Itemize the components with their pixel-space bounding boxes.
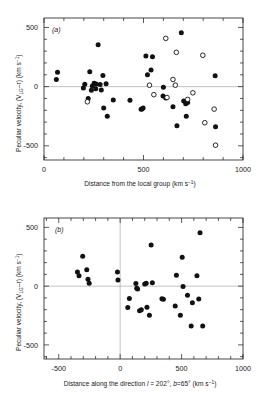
y-tick-label: 500 — [26, 223, 38, 232]
data-point-filled — [115, 278, 120, 283]
data-point-filled — [170, 104, 175, 109]
data-point-filled — [180, 255, 185, 260]
panel-a-data-points — [54, 30, 218, 147]
data-point-open — [185, 97, 190, 102]
data-point-filled — [111, 97, 116, 102]
data-point-filled — [161, 85, 166, 90]
data-point-filled — [127, 98, 132, 103]
figure-container: Peculiar velocity, (VLG–r) (km s−1) Dist… — [0, 0, 262, 403]
data-point-open — [165, 95, 170, 100]
data-point-filled — [104, 81, 109, 86]
data-point-filled — [184, 114, 189, 119]
panel-b-tag: (b) — [55, 226, 64, 234]
panel-a-tag: (a) — [52, 26, 61, 34]
data-point-filled — [174, 273, 179, 278]
data-point-open — [212, 107, 217, 112]
x-tick-label: 0 — [118, 364, 122, 373]
data-point-open — [202, 120, 207, 125]
data-point-filled — [54, 77, 59, 82]
x-tick-label: 0 — [42, 165, 46, 174]
data-point-filled — [93, 86, 98, 91]
svg-text:Peculiar velocity, (VLG–r) (km: Peculiar velocity, (VLG–r) (km s−1) — [15, 54, 24, 152]
data-point-filled — [196, 297, 201, 302]
data-point-filled — [139, 307, 144, 312]
panel-a-plot: Peculiar velocity, (VLG–r) (km s−1) Dist… — [0, 0, 262, 196]
data-point-filled — [127, 296, 132, 301]
x-tick-label: 1000 — [235, 165, 251, 174]
data-point-filled — [99, 87, 104, 92]
data-point-filled — [55, 70, 60, 75]
data-point-open — [174, 50, 179, 55]
data-point-filled — [173, 303, 178, 308]
data-point-open — [191, 90, 196, 95]
panel-a-y-axis-title: Peculiar velocity, (VLG–r) (km s−1) — [15, 54, 24, 152]
data-point-filled — [143, 54, 148, 59]
data-point-filled — [96, 42, 101, 47]
x-tick-label: -500 — [52, 364, 66, 373]
svg-text:Distance along the direction l: Distance along the direction l = 202°, b… — [64, 380, 217, 388]
svg-text:(a): (a) — [52, 26, 61, 34]
panel-b-plot: Peculiar velocity, (VLG–r) (km s−1) Dist… — [0, 196, 262, 403]
data-point-filled — [82, 82, 87, 87]
x-tick-label: 500 — [138, 165, 150, 174]
y-tick-label: 0 — [34, 282, 38, 291]
x-tick-label: 1000 — [235, 364, 251, 373]
data-point-filled — [178, 313, 183, 318]
data-point-filled — [149, 68, 154, 73]
y-tick-label: -500 — [24, 341, 38, 350]
data-point-open — [201, 53, 206, 58]
data-point-filled — [181, 284, 186, 289]
y-tick-label: 0 — [34, 82, 38, 91]
panel-a: Peculiar velocity, (VLG–r) (km s−1) Dist… — [0, 0, 262, 196]
data-point-open — [147, 83, 152, 88]
panel-b-axes: -50005001000-5000500 — [24, 218, 251, 373]
panel-a-x-axis-title: Distance from the local group (km s−1) — [84, 180, 195, 188]
data-point-filled — [144, 281, 149, 286]
data-point-filled — [84, 267, 89, 272]
panel-a-axes: 05001000-5000500 — [24, 18, 251, 174]
data-point-filled — [190, 300, 195, 305]
data-point-filled — [141, 105, 146, 110]
data-point-filled — [174, 123, 179, 128]
data-point-filled — [144, 305, 149, 310]
data-point-filled — [198, 230, 203, 235]
data-point-filled — [125, 305, 130, 310]
data-point-filled — [101, 105, 106, 110]
x-tick-label: 500 — [176, 364, 188, 373]
data-point-filled — [150, 280, 155, 285]
data-point-filled — [213, 73, 218, 78]
panel-b-x-axis-title: Distance along the direction l = 202°, b… — [64, 380, 217, 388]
data-point-filled — [189, 324, 194, 329]
y-tick-label: 500 — [26, 23, 38, 32]
data-point-filled — [145, 72, 150, 77]
data-point-filled — [87, 69, 92, 74]
data-point-filled — [133, 281, 138, 286]
data-point-filled — [100, 73, 105, 78]
data-point-filled — [150, 54, 155, 59]
plot-frame — [44, 18, 243, 160]
data-point-filled — [105, 114, 110, 119]
data-point-open — [163, 36, 168, 41]
data-point-filled — [87, 281, 92, 286]
data-point-filled — [77, 273, 82, 278]
data-point-filled — [147, 313, 152, 318]
data-point-filled — [135, 287, 140, 292]
data-point-open — [152, 92, 157, 97]
data-point-filled — [194, 273, 199, 278]
svg-text:Peculiar velocity, (VLG–r) (km: Peculiar velocity, (VLG–r) (km s−1) — [15, 253, 24, 351]
data-point-open — [213, 143, 218, 148]
data-point-filled — [179, 30, 184, 35]
svg-text:(b): (b) — [55, 226, 64, 234]
data-point-filled — [161, 297, 166, 302]
svg-text:Distance from the local group: Distance from the local group (km s−1) — [84, 180, 195, 188]
panel-b-y-axis-title: Peculiar velocity, (VLG–r) (km s−1) — [15, 253, 24, 351]
data-point-open — [171, 77, 176, 82]
data-point-filled — [213, 124, 218, 129]
data-point-filled — [185, 293, 190, 298]
panel-b: Peculiar velocity, (VLG–r) (km s−1) Dist… — [0, 196, 262, 403]
plot-frame — [44, 218, 243, 359]
data-point-filled — [98, 82, 103, 87]
data-point-filled — [115, 270, 120, 275]
data-point-filled — [80, 254, 85, 259]
data-point-open — [85, 99, 90, 104]
